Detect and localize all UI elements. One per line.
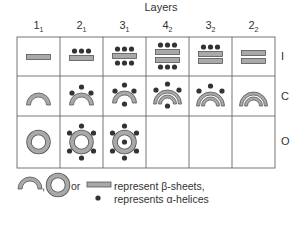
cell-i-1 bbox=[27, 55, 51, 60]
legend-arc-icon bbox=[18, 177, 42, 189]
cell-i-2 bbox=[70, 48, 94, 60]
grid-lines bbox=[17, 37, 275, 168]
legend-sheet-icon bbox=[87, 182, 111, 187]
cell-c-1 bbox=[27, 93, 51, 105]
legend-beta-text: represent β-sheets, bbox=[114, 180, 205, 192]
legend-comma: , bbox=[42, 180, 45, 192]
cell-o-2 bbox=[67, 123, 96, 160]
cell-i-5 bbox=[199, 44, 223, 63]
cell-o-3 bbox=[110, 123, 139, 160]
cell-o-1 bbox=[29, 133, 48, 152]
cell-c-4 bbox=[153, 81, 181, 108]
legend-alpha-text: represents α-helices bbox=[114, 193, 209, 205]
legend-helix-icon bbox=[95, 195, 100, 200]
cell-c-5 bbox=[196, 83, 224, 106]
cell-c-3 bbox=[112, 82, 136, 106]
legend-ring-icon bbox=[49, 176, 68, 195]
cell-c-2 bbox=[69, 84, 93, 105]
cell-i-4 bbox=[156, 42, 180, 69]
legend-or: or bbox=[71, 180, 80, 192]
cell-i-6 bbox=[242, 51, 266, 64]
cell-c-6 bbox=[240, 92, 268, 106]
cell-i-3 bbox=[113, 46, 137, 65]
